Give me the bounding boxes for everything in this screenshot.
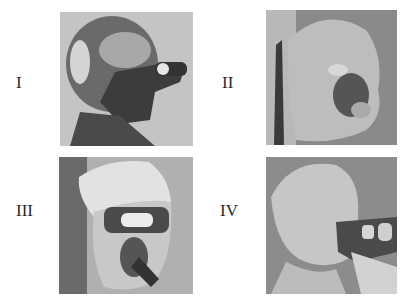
hooded-profile-image bbox=[266, 157, 397, 294]
panel-label-4: IV bbox=[220, 202, 238, 219]
panel-label-1: I bbox=[16, 74, 22, 91]
hooded-head-image bbox=[59, 157, 193, 294]
photo-panel-1 bbox=[60, 12, 193, 146]
panel-label-2: II bbox=[222, 74, 233, 91]
photo-panel-4 bbox=[266, 157, 397, 294]
photo-panel-3 bbox=[59, 157, 193, 294]
pale-head-image bbox=[266, 10, 397, 145]
masked-head-image bbox=[60, 12, 193, 146]
photo-panel-2 bbox=[266, 10, 397, 145]
panel-label-3: III bbox=[16, 202, 33, 219]
